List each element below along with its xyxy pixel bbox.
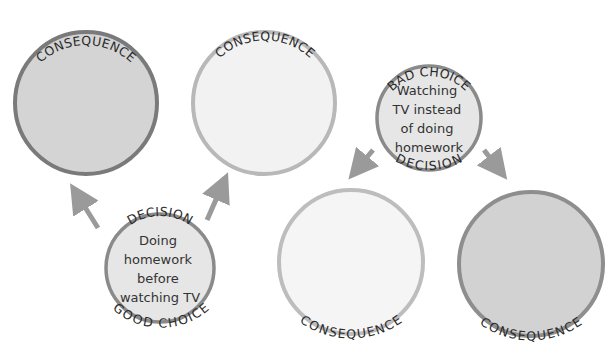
arrow-up-left-icon xyxy=(78,196,98,228)
decision-diagram: CONSEQUENCE CONSEQUENCE BAD CHOICE DECIS… xyxy=(0,0,609,362)
consequence-circle-bottom-middle: CONSEQUENCE xyxy=(279,190,423,341)
bad-choice-decision-circle: BAD CHOICE DECISION Watching TV instead … xyxy=(377,64,481,173)
arrow-down-right-icon xyxy=(484,150,498,168)
consequence-circle-bottom-right: CONSEQUENCE xyxy=(459,192,603,343)
arrow-up-right-icon xyxy=(207,186,222,220)
good-choice-decision-circle: DECISION GOOD CHOICE Doing homework befo… xyxy=(106,204,214,331)
arrow-down-left-icon xyxy=(358,150,373,168)
consequence-circle-top-left: CONSEQUENCE xyxy=(15,32,157,174)
consequence-circle-top-middle: CONSEQUENCE xyxy=(193,28,335,174)
